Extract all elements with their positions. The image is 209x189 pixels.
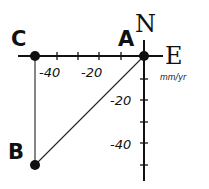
point-a bbox=[139, 51, 149, 61]
units-label: mm/yr bbox=[160, 73, 187, 82]
y-tick-label-minus-20: -20 bbox=[110, 93, 131, 108]
y-tick-label-minus-40: -40 bbox=[110, 137, 131, 152]
x-tick-label-minus-40: -40 bbox=[39, 65, 60, 80]
point-b bbox=[30, 160, 40, 170]
point-a-label: A bbox=[118, 27, 135, 51]
velocity-triangle-diagram: -40 -20 -20 -40 N E mm/yr A C B bbox=[0, 0, 209, 189]
point-c bbox=[30, 51, 40, 61]
north-label: N bbox=[135, 10, 156, 38]
point-c-label: C bbox=[11, 27, 26, 51]
x-tick-label-minus-20: -20 bbox=[81, 65, 102, 80]
east-label: E bbox=[165, 42, 183, 70]
point-b-label: B bbox=[8, 140, 24, 164]
